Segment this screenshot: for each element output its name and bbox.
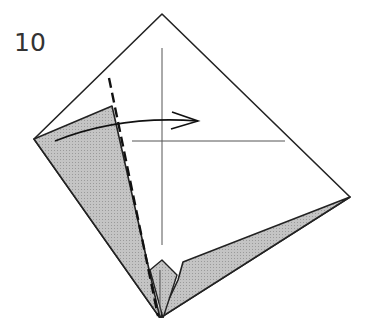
- diagram-canvas: [0, 0, 365, 318]
- origami-diagram: 10: [0, 0, 365, 318]
